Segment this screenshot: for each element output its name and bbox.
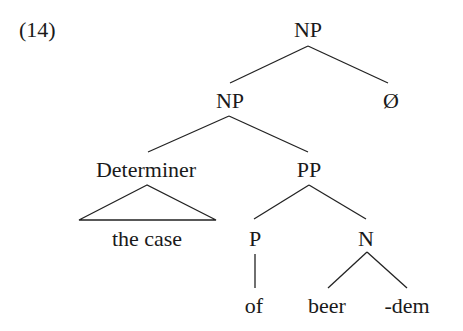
leaf-the-case: the case [112,228,182,250]
edge-pp-p [254,185,309,219]
determiner-triangle [79,185,216,220]
node-determiner: Determiner [96,159,196,181]
edge-np-null [308,46,388,83]
leaf-of: of [245,295,263,317]
node-pp: PP [297,159,321,181]
edge-pp-n [309,185,366,219]
edge-n-dem [367,252,407,288]
edge-n-beer [328,252,367,288]
node-n: N [358,228,374,250]
leaf-dem: -dem [384,295,429,317]
leaf-beer: beer [308,295,346,317]
tree-edges [0,0,463,331]
edge-np-pp [229,116,308,152]
node-np-inner: NP [216,90,244,112]
node-np-root: NP [294,19,322,41]
edge-np-np [230,46,308,83]
edge-np-determiner [148,116,229,152]
node-null: Ø [383,90,399,112]
node-p: P [249,228,261,250]
